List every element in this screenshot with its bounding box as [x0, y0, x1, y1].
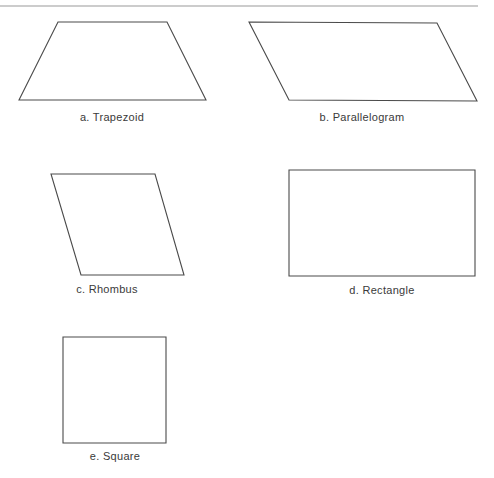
rhombus-shape: [51, 174, 184, 275]
parallelogram-shape: [249, 22, 477, 101]
square-label: e. Square: [90, 450, 140, 462]
parallelogram-label: b. Parallelogram: [320, 111, 405, 123]
rectangle-label: d. Rectangle: [349, 284, 414, 296]
trapezoid-shape: [19, 22, 206, 100]
rectangle-shape: [289, 170, 475, 276]
quadrilateral-diagram: [0, 0, 494, 478]
square-shape: [63, 337, 166, 443]
rhombus-label: c. Rhombus: [76, 283, 138, 295]
trapezoid-label: a. Trapezoid: [80, 111, 144, 123]
